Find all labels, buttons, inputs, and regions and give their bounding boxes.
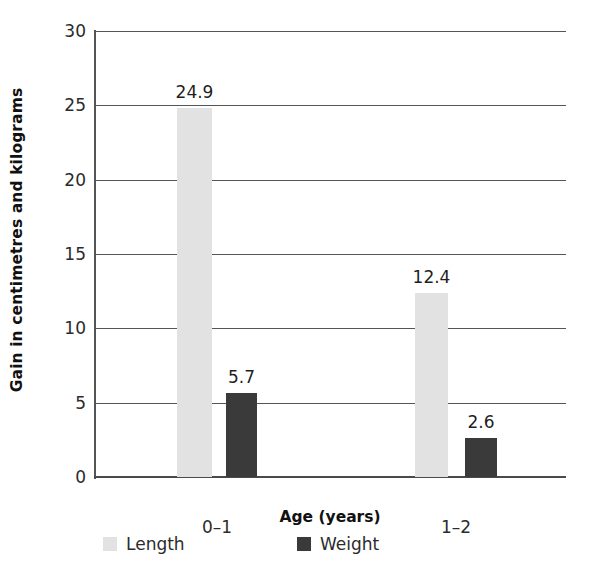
legend-item-weight[interactable]: Weight bbox=[297, 534, 379, 554]
bar-value-weight-0-1: 5.7 bbox=[228, 367, 255, 387]
bar-weight-0-1[interactable] bbox=[226, 393, 257, 478]
bar-value-weight-1-2: 2.6 bbox=[467, 412, 494, 432]
chart-legend: Length Weight bbox=[94, 534, 566, 562]
y-axis-tick-labels: 30 25 20 15 10 5 0 bbox=[38, 0, 86, 581]
legend-swatch-length-icon bbox=[103, 537, 117, 551]
y-tick-label-10: 10 bbox=[40, 318, 86, 338]
legend-label-weight: Weight bbox=[320, 534, 379, 554]
bar-weight-1-2[interactable] bbox=[465, 438, 497, 477]
y-tick-label-25: 25 bbox=[40, 95, 86, 115]
y-tick-label-30: 30 bbox=[40, 21, 86, 41]
bar-value-length-0-1: 24.9 bbox=[176, 82, 214, 102]
bar-length-1-2[interactable] bbox=[415, 293, 448, 477]
y-axis-title: Gain in centimetres and kilograms bbox=[0, 0, 34, 480]
legend-swatch-weight-icon bbox=[297, 537, 311, 551]
y-tick-label-5: 5 bbox=[40, 393, 86, 413]
bar-chart-figure: Gain in centimetres and kilograms 30 25 … bbox=[0, 0, 598, 581]
y-tick-label-15: 15 bbox=[40, 244, 86, 264]
gridline-5 bbox=[94, 403, 566, 404]
gridline-15 bbox=[94, 254, 566, 255]
bar-value-length-1-2: 12.4 bbox=[413, 267, 451, 287]
legend-label-length: Length bbox=[126, 534, 185, 554]
bar-length-0-1[interactable] bbox=[177, 108, 212, 477]
y-tick-label-20: 20 bbox=[40, 170, 86, 190]
gridline-25 bbox=[94, 105, 566, 106]
x-axis-title: Age (years) bbox=[94, 508, 566, 526]
gridline-20 bbox=[94, 180, 566, 181]
gridline-10 bbox=[94, 328, 566, 329]
y-tick-label-0: 0 bbox=[40, 467, 86, 487]
gridline-30 bbox=[94, 31, 566, 32]
legend-item-length[interactable]: Length bbox=[103, 534, 185, 554]
plot-area: 24.9 5.7 12.4 2.6 0–1 1–2 bbox=[94, 31, 566, 477]
y-axis-title-text: Gain in centimetres and kilograms bbox=[8, 88, 26, 392]
